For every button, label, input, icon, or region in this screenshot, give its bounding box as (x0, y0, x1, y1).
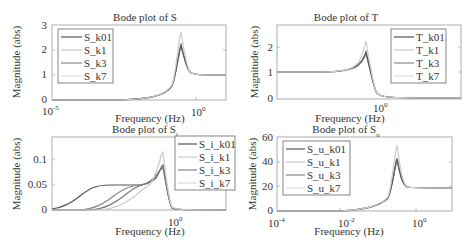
panel-si-ytick-1: 0.05 (28, 178, 48, 190)
panel-si-xlabel: Frequency (Hz) (115, 225, 185, 238)
panel-su-ytick-60: 60 (262, 131, 274, 143)
legend-s-k7: S_k7 (84, 70, 107, 82)
panel-su-ylabel: Magnitude (abs) (246, 137, 259, 210)
legend-s-k01: S_k01 (84, 31, 112, 43)
legend-s-k1: S_k1 (84, 44, 107, 56)
legend-su-k01: S_u_k01 (307, 143, 346, 155)
panel-su: Bode plot of Su 0 20 40 60 Magnitude (ab… (246, 123, 452, 238)
panel-su-xtick-3: 100 (412, 216, 427, 229)
panel-t-title: Bode plot of T (314, 11, 379, 23)
panel-si-ytick-2: 0.1 (33, 153, 47, 165)
panel-t-ylabel: Magnitude (abs) (248, 25, 261, 98)
legend-su-k1: S_u_k1 (307, 156, 341, 168)
panel-su-ytick-0: 0 (268, 204, 274, 216)
panel-su-ytick-40: 40 (262, 155, 274, 167)
panel-si-ytick-0: 0 (42, 203, 48, 215)
legend-su-k3: S_u_k3 (307, 169, 341, 181)
legend-su-k7: S_u_k7 (307, 182, 341, 194)
panel-su-xlabel: Frequency (Hz) (314, 225, 384, 238)
panel-su-ytick-20: 20 (262, 180, 274, 192)
panel-s-ytick-2: 2 (42, 43, 48, 55)
panel-t: Bode plot of T 0 1 2 Magnitude (abs) 100… (248, 11, 461, 125)
legend-t-k7: T_k7 (416, 70, 440, 82)
panel-s-xtick-right: 100 (191, 105, 206, 118)
legend-si-k1: S_i_k1 (199, 151, 230, 163)
panel-s-ytick-0: 0 (42, 93, 48, 105)
panel-s-ylabel: Magnitude (abs) (10, 25, 23, 98)
panel-t-ytick-0: 0 (268, 92, 274, 104)
panel-s-ytick-3: 3 (42, 19, 48, 31)
legend-si-k01: S_i_k01 (199, 138, 236, 150)
panel-t-legend: T_k01 T_k1 T_k3 T_k7 (391, 29, 446, 83)
legend-t-k1: T_k1 (416, 44, 439, 56)
panel-s-legend: S_k01 S_k1 S_k3 S_k7 (58, 29, 113, 83)
panel-su-legend: S_u_k01 S_u_k1 S_u_k3 S_u_k7 (283, 141, 350, 195)
panel-si: Bode plot of Si 0 0.05 0.1 Magnitude (ab… (10, 123, 236, 238)
legend-s-k3: S_k3 (84, 57, 107, 69)
legend-si-k3: S_i_k3 (199, 164, 231, 176)
panel-su-xtick-1: 10-4 (268, 216, 285, 229)
panel-t-ytick-1: 1 (268, 66, 274, 78)
panel-s-xtick-left: 10-5 (42, 104, 59, 117)
panel-t-ytick-2: 2 (268, 41, 274, 53)
panel-s-title: Bode plot of S (113, 11, 177, 23)
legend-si-k7: S_i_k7 (199, 177, 231, 189)
panel-s: Bode plot of S 0 1 2 3 Magnitude (abs) 1… (10, 11, 226, 125)
legend-t-k01: T_k01 (416, 31, 445, 43)
legend-t-k3: T_k3 (416, 57, 440, 69)
bode-figure: Bode plot of S 0 1 2 3 Magnitude (abs) 1… (0, 0, 468, 252)
panel-si-legend: S_i_k01 S_i_k1 S_i_k3 S_i_k7 (175, 136, 236, 190)
panel-s-ytick-1: 1 (42, 68, 48, 80)
panel-si-ylabel: Magnitude (abs) (10, 137, 23, 210)
